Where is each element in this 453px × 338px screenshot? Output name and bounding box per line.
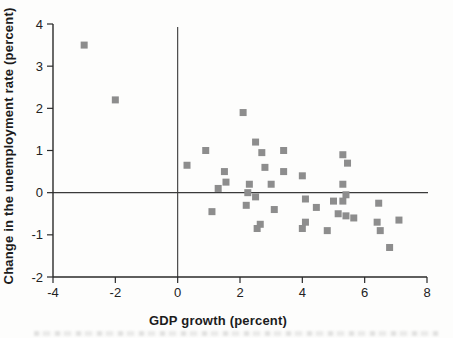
y-tick-label: 3 <box>36 59 43 74</box>
data-point-marker <box>252 193 259 200</box>
chart-canvas: -4-202468-2-101234 <box>0 0 453 338</box>
data-point-marker <box>257 221 264 228</box>
data-point-marker <box>374 219 381 226</box>
scan-caption-artifact <box>34 331 439 336</box>
data-point-marker <box>271 206 278 213</box>
data-point-marker <box>330 198 337 205</box>
data-point-marker <box>302 219 309 226</box>
data-point-marker <box>112 96 119 103</box>
data-point-marker <box>221 168 228 175</box>
data-point-marker <box>246 181 253 188</box>
data-point-marker <box>202 147 209 154</box>
okuns-law-scatter-figure: -4-202468-2-101234 Change in the unemplo… <box>0 0 453 338</box>
x-tick-label: -4 <box>47 285 59 300</box>
data-point-marker <box>335 210 342 217</box>
data-point-marker <box>252 139 259 146</box>
data-point-marker <box>299 172 306 179</box>
x-tick-label: 8 <box>423 285 430 300</box>
x-tick-label: 4 <box>299 285 306 300</box>
data-point-marker <box>324 227 331 234</box>
data-point-marker <box>299 225 306 232</box>
data-point-marker <box>258 149 265 156</box>
data-point-marker <box>377 227 384 234</box>
data-point-marker <box>344 160 351 167</box>
y-tick-label: 1 <box>36 143 43 158</box>
data-point-marker <box>375 200 382 207</box>
data-point-marker <box>261 164 268 171</box>
x-tick-label: -2 <box>110 285 122 300</box>
data-point-marker <box>81 42 88 49</box>
data-point-marker <box>339 151 346 158</box>
data-point-marker <box>208 208 215 215</box>
data-point-marker <box>386 244 393 251</box>
data-point-marker <box>339 181 346 188</box>
data-point-marker <box>339 198 346 205</box>
x-axis-label: GDP growth (percent) <box>149 313 287 328</box>
data-point-marker <box>342 191 349 198</box>
data-point-marker <box>268 181 275 188</box>
x-tick-label: 6 <box>361 285 368 300</box>
data-point-marker <box>395 217 402 224</box>
y-tick-label: 2 <box>36 101 43 116</box>
data-point-marker <box>342 212 349 219</box>
data-point-marker <box>313 204 320 211</box>
data-point-marker <box>240 109 247 116</box>
data-point-marker <box>184 162 191 169</box>
y-axis-label: Change in the unemployment rate (percent… <box>1 8 16 285</box>
data-point-marker <box>280 168 287 175</box>
scanned-figure-page: -4-202468-2-101234 Change in the unemplo… <box>0 0 453 338</box>
data-point-marker <box>215 185 222 192</box>
y-tick-label: -2 <box>31 270 43 285</box>
data-point-marker <box>280 147 287 154</box>
data-point-marker <box>243 202 250 209</box>
y-tick-label: 0 <box>36 185 43 200</box>
data-point-marker <box>244 189 251 196</box>
y-tick-label: 4 <box>36 17 43 32</box>
y-tick-label: -1 <box>31 227 43 242</box>
x-tick-label: 2 <box>236 285 243 300</box>
data-point-marker <box>302 195 309 202</box>
data-point-marker <box>350 214 357 221</box>
data-point-marker <box>222 179 229 186</box>
x-tick-label: 0 <box>174 285 181 300</box>
